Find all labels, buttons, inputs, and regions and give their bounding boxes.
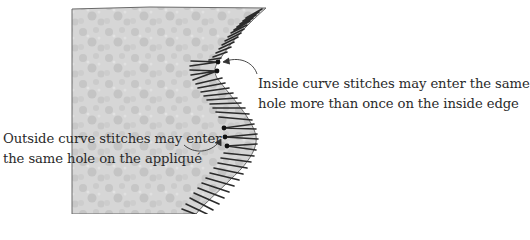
inside-curve-label: Inside curve stitches may enter the same…	[258, 74, 530, 114]
inside-curve-label-line2: hole more than once on the inside edge	[258, 94, 530, 114]
outside-hole-2	[223, 135, 228, 140]
inside-hole-1	[216, 60, 221, 65]
inside-curve-label-line1: Inside curve stitches may enter the same	[258, 74, 530, 94]
outside-curve-label-line1: Outside curve stitches may enter	[3, 129, 221, 149]
outside-curve-label: Outside curve stitches may enter the sam…	[3, 129, 221, 169]
inside-curve-arrow	[223, 58, 257, 74]
outside-hole-1	[222, 126, 227, 131]
outside-curve-label-line2: the same hole on the appliqué	[3, 149, 221, 169]
inside-hole-2	[215, 69, 220, 74]
outside-hole-3	[225, 144, 230, 149]
